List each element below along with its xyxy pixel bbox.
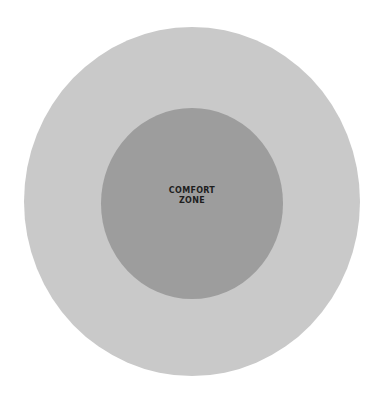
label-line-2: ZONE [101, 196, 283, 206]
comfort-zone-label: COMFORT ZONE [101, 186, 283, 206]
label-line-1: COMFORT [101, 186, 283, 196]
